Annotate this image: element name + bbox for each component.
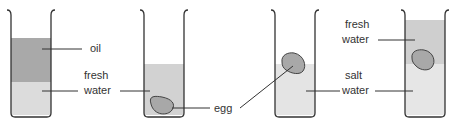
label-oil: oil [90, 42, 101, 54]
beaker-2 [140, 10, 188, 117]
beaker-3 [271, 10, 319, 117]
fresh-water-layer [11, 82, 51, 115]
label-fresh-water-4-line2: water [341, 33, 369, 45]
oil-layer [11, 38, 51, 82]
label-fresh-water-4-line1: fresh [345, 18, 369, 30]
beaker-4 [401, 10, 449, 117]
beaker-1 [7, 10, 55, 117]
label-egg: egg [214, 102, 232, 114]
label-salt-water-line2: water [341, 84, 369, 96]
label-salt-water-line1: salt [345, 69, 362, 81]
egg-density-diagram: oil fresh water egg salt water fresh wat… [0, 0, 452, 128]
label-fresh-water-1-line2: water [83, 84, 111, 96]
label-fresh-water-1-line1: fresh [84, 69, 108, 81]
salt-water-layer [405, 64, 445, 115]
